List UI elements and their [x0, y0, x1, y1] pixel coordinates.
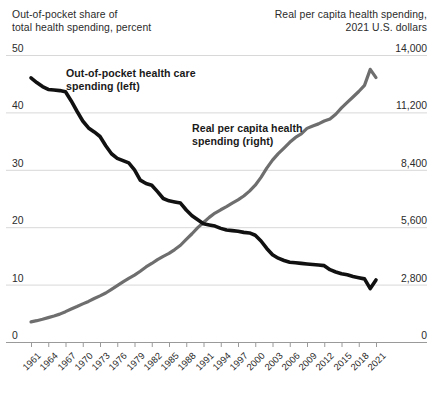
- annotation-out-of-pocket-line1: Out-of-pocket health care: [66, 67, 196, 80]
- series-line-per-capita: [31, 69, 376, 322]
- right-axis-tick-label: 14,000: [381, 43, 427, 54]
- left-axis-tick-label: 20: [12, 215, 40, 226]
- right-axis-tick-label: 0: [381, 330, 427, 341]
- right-axis-tick-label: 11,200: [381, 100, 427, 111]
- right-axis-tick-label: 8,400: [381, 158, 427, 169]
- annotation-per-capita: Real per capita health spending (right): [192, 122, 303, 149]
- right-axis-title: Real per capita health spending, 2021 U.…: [197, 8, 427, 34]
- left-axis-tick-label: 10: [12, 273, 40, 284]
- annotation-out-of-pocket-line2: spending (left): [66, 80, 196, 93]
- annotation-out-of-pocket: Out-of-pocket health care spending (left…: [66, 67, 196, 94]
- left-axis-title-line2: total health spending, percent: [12, 21, 212, 34]
- left-axis-title-line1: Out-of-pocket share of: [12, 8, 212, 21]
- chart-container: Out-of-pocket share of total health spen…: [0, 0, 433, 397]
- right-axis-title-line2: 2021 U.S. dollars: [197, 21, 427, 34]
- right-axis-title-line1: Real per capita health spending,: [197, 8, 427, 21]
- left-axis-tick-label: 40: [12, 100, 40, 111]
- annotation-per-capita-line1: Real per capita health: [192, 122, 303, 135]
- left-axis-tick-label: 30: [12, 158, 40, 169]
- right-axis-tick-label: 5,600: [381, 215, 427, 226]
- plot-area: [0, 0, 433, 397]
- series-line-out-of-pocket: [31, 78, 376, 289]
- left-axis-tick-label: 50: [12, 43, 40, 54]
- left-axis-title: Out-of-pocket share of total health spen…: [12, 8, 212, 34]
- annotation-per-capita-line2: spending (right): [192, 135, 303, 148]
- left-axis-tick-label: 0: [12, 330, 40, 341]
- right-axis-tick-label: 2,800: [381, 273, 427, 284]
